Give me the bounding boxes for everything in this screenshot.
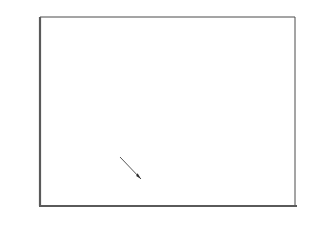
chart-page — [0, 0, 318, 238]
usda-consumption-production-chart — [0, 0, 318, 238]
chart-background — [0, 0, 318, 238]
